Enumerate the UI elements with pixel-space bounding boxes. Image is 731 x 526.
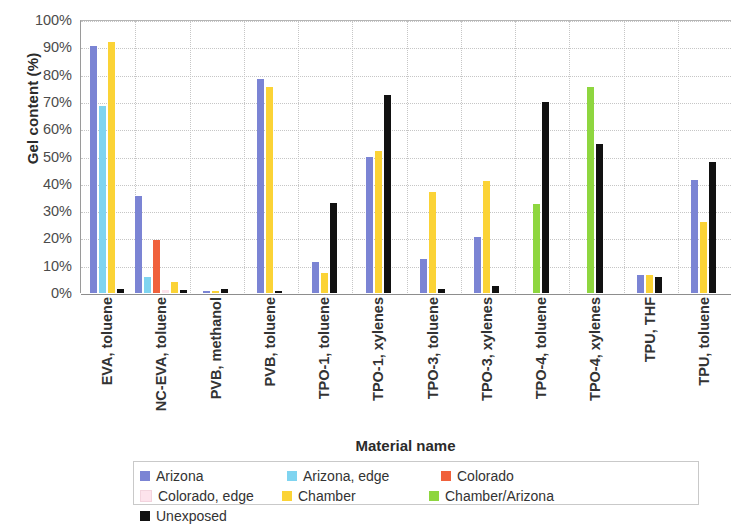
bar-group (406, 20, 460, 293)
bar-group (568, 20, 622, 293)
bar (596, 144, 603, 293)
x-axis-tick-cell: TPU, toluene (677, 293, 731, 433)
legend-swatch-icon (140, 490, 152, 502)
bar-group (677, 20, 731, 293)
bar (492, 286, 499, 293)
x-axis-tick-cell: TPO-3, xylenes (460, 293, 514, 433)
legend-item[interactable]: Arizona (140, 466, 285, 486)
x-axis-tick-cell: TPO-3, toluene (406, 293, 460, 433)
x-axis-tick-cell: PVB, methanol (189, 293, 243, 433)
x-axis-tick-cell: TPO-4, toluene (514, 293, 568, 433)
bar (330, 203, 337, 293)
y-axis-tick-label: 0% (14, 285, 72, 301)
y-axis-tick-label: 10% (14, 258, 72, 274)
x-axis-tick-label: TPU, THF (642, 297, 658, 362)
x-axis-tick-label: TPO-1, xylenes (370, 297, 386, 401)
legend-label: Chamber (298, 488, 356, 504)
x-axis-tick-cell: NC-EVA, toluene (134, 293, 188, 433)
bar-group (134, 20, 188, 293)
bar (587, 87, 594, 293)
legend-swatch-icon (140, 471, 150, 481)
bar (266, 87, 273, 293)
y-axis-tick-label: 90% (14, 39, 72, 55)
x-axis-tick-label: TPO-1, toluene (316, 297, 332, 399)
y-axis-tick-label: 20% (14, 230, 72, 246)
bar (153, 240, 160, 293)
x-axis-tick-label: TPO-4, xylenes (587, 297, 603, 401)
x-axis-tick-cell: TPU, THF (623, 293, 677, 433)
x-axis-tick-cell: EVA, toluene (80, 293, 134, 433)
legend-label: Unexposed (156, 508, 227, 524)
x-axis-tick-labels: EVA, tolueneNC-EVA, toluenePVB, methanol… (80, 293, 731, 433)
y-axis-tick-label: 50% (14, 149, 72, 165)
x-axis-tick-label: TPO-4, toluene (533, 297, 549, 399)
legend-label: Colorado (457, 468, 514, 484)
bar (420, 259, 427, 293)
legend-item[interactable]: Chamber (282, 486, 427, 506)
x-axis-tick-cell: TPO-1, xylenes (351, 293, 405, 433)
bar (171, 282, 178, 293)
bar (637, 275, 644, 293)
x-axis-tick-label: TPO-3, toluene (425, 297, 441, 399)
x-axis-title: Material name (80, 437, 731, 454)
y-axis-tick-label: 60% (14, 121, 72, 137)
bar (99, 106, 106, 293)
bar (429, 192, 436, 293)
bar-groups (80, 20, 731, 293)
x-axis-tick-label: PVB, toluene (262, 297, 278, 386)
bar (321, 273, 328, 293)
bar (474, 237, 481, 293)
bar (483, 181, 490, 293)
x-axis-tick-cell: TPO-4, xylenes (568, 293, 622, 433)
x-axis-tick-label: PVB, methanol (208, 297, 224, 399)
bar-group (351, 20, 405, 293)
y-axis-tick-label: 30% (14, 203, 72, 219)
x-axis-tick-label: EVA, toluene (99, 297, 115, 385)
legend-item[interactable]: Colorado (441, 466, 561, 486)
bar-group (80, 20, 134, 293)
x-axis-tick-label: NC-EVA, toluene (153, 297, 169, 411)
bar (108, 42, 115, 293)
bar (257, 79, 264, 293)
bar-group (623, 20, 677, 293)
legend-item[interactable]: Arizona, edge (287, 466, 439, 486)
y-axis-tick-label: 40% (14, 176, 72, 192)
legend-swatch-icon (441, 471, 451, 481)
bar (366, 157, 373, 294)
legend-swatch-icon (282, 491, 292, 501)
bar-group (243, 20, 297, 293)
bar (646, 275, 653, 293)
legend-label: Arizona, edge (303, 468, 389, 484)
bar (384, 95, 391, 293)
bar (144, 277, 151, 293)
y-axis-tick-label: 70% (14, 94, 72, 110)
bar (542, 102, 549, 293)
x-axis-tick-cell: PVB, toluene (243, 293, 297, 433)
legend-swatch-icon (140, 511, 150, 521)
legend-label: Colorado, edge (158, 488, 254, 504)
bar (135, 196, 142, 293)
y-axis-tick-label: 100% (14, 12, 72, 28)
bar (533, 204, 540, 293)
bar (375, 151, 382, 293)
legend-label: Arizona (156, 468, 203, 484)
bar-group (189, 20, 243, 293)
legend-item[interactable]: Colorado, edge (140, 486, 280, 506)
x-axis-tick-label: TPO-3, xylenes (479, 297, 495, 401)
bar (312, 262, 319, 293)
y-axis-tick-label: 80% (14, 67, 72, 83)
bar (90, 46, 97, 293)
bar (709, 162, 716, 293)
x-axis-tick-cell: TPO-1, toluene (297, 293, 351, 433)
bar-group (460, 20, 514, 293)
bar (691, 180, 698, 293)
legend-swatch-icon (429, 491, 439, 501)
legend-item[interactable]: Chamber/Arizona (429, 486, 581, 506)
bar-group (514, 20, 568, 293)
chart-legend: ArizonaArizona, edgeColoradoColorado, ed… (133, 461, 699, 505)
legend-item[interactable]: Unexposed (140, 506, 260, 526)
legend-label: Chamber/Arizona (445, 488, 554, 504)
bar (700, 222, 707, 293)
bar (655, 277, 662, 293)
